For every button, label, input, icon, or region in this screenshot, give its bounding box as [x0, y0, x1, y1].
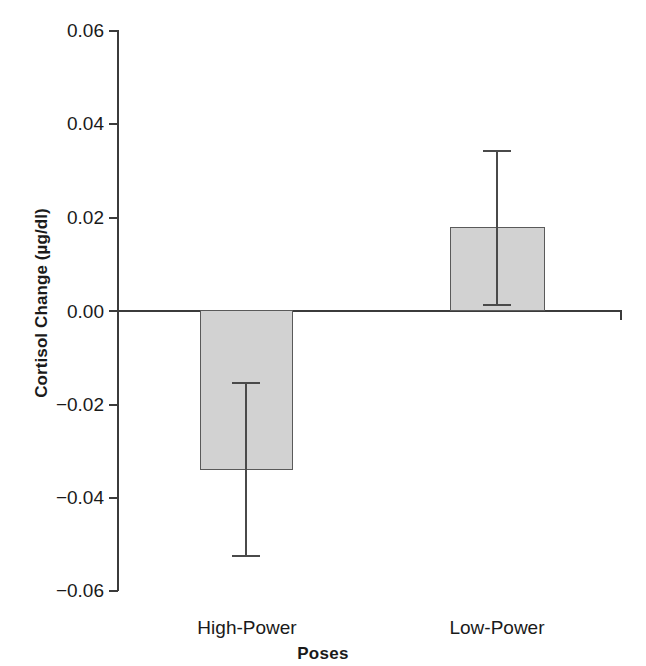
x-axis-title: Poses	[0, 644, 646, 664]
error-bar-line-high-power	[245, 382, 247, 557]
y-axis-tick-labels: 0.06 0.04 0.02 0.00 −0.02 −0.04 −0.06	[28, 0, 104, 666]
bar-chart-figure: Cortisol Change (µg/dl) 0.06 0.04 0.02 0…	[0, 0, 646, 666]
y-tick-label: 0.00	[32, 302, 104, 321]
y-tick-label: 0.06	[32, 21, 104, 40]
y-axis-tick	[109, 404, 118, 406]
x-axis-end-tick	[620, 310, 622, 320]
y-axis-tick	[109, 497, 118, 499]
error-bar-cap-upper-low-power	[483, 150, 511, 152]
error-bar-cap-lower-high-power	[232, 555, 260, 557]
x-axis-zero-baseline	[117, 310, 622, 312]
x-tick-label-high-power: High-Power	[197, 617, 296, 639]
error-bar-cap-upper-high-power	[232, 382, 260, 384]
y-axis-tick	[109, 217, 118, 219]
y-axis-tick	[109, 123, 118, 125]
y-axis-tick	[109, 30, 118, 32]
error-bar-cap-lower-low-power	[483, 304, 511, 306]
x-tick-label-low-power: Low-Power	[449, 617, 544, 639]
error-bar-line-low-power	[496, 150, 498, 305]
y-axis-tick	[109, 590, 118, 592]
y-tick-label: 0.02	[32, 208, 104, 227]
y-tick-label: −0.06	[32, 581, 104, 600]
y-tick-label: 0.04	[32, 114, 104, 133]
y-tick-label: −0.02	[32, 395, 104, 414]
y-tick-label: −0.04	[32, 488, 104, 507]
